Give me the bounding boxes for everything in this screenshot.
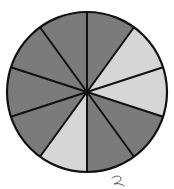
handwritten-mark: [112, 176, 124, 186]
fraction-circle-diagram: 2: [0, 0, 174, 189]
